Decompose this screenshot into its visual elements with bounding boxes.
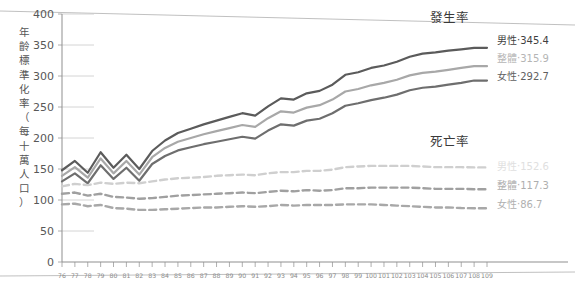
group-heading-mortality-label: 死亡率	[430, 134, 469, 149]
y-axis-title-char: ）	[19, 196, 29, 208]
y-axis-title-char: 十	[19, 140, 29, 152]
series-label-mortality-total: 整體‧117.3	[497, 179, 549, 191]
data-series-group	[62, 48, 487, 210]
series-label-mortality-male: 男性‧152.6	[497, 160, 549, 172]
series-label-incidence-male: 男性‧345.4	[497, 34, 549, 46]
x-tick-label: 92	[264, 272, 272, 279]
x-tick-label: 88	[213, 272, 221, 279]
x-tick-label: 87	[200, 272, 208, 279]
y-axis-tick-marks	[58, 14, 62, 262]
y-tick-label: 150	[33, 163, 54, 176]
x-tick-label: 81	[122, 272, 130, 279]
y-axis-title-char: 齡	[19, 40, 30, 52]
y-axis-title-char: 口	[19, 182, 29, 194]
y-axis-title-char: 標	[19, 54, 30, 66]
x-axis-tick-labels: 7677787980818283848586878889909192939495…	[58, 272, 493, 279]
y-axis-title-char: 每	[19, 125, 30, 137]
x-tick-label: 104	[417, 272, 429, 279]
series-label-incidence-total: 整體‧315.9	[497, 52, 549, 64]
chart-container: 050100150200250300350400 767778798081828…	[0, 0, 575, 284]
x-tick-label: 100	[365, 272, 377, 279]
y-axis-title-char: 人	[19, 168, 30, 180]
y-tick-label: 50	[40, 225, 54, 238]
x-tick-label: 82	[135, 272, 143, 279]
x-tick-label: 83	[148, 272, 156, 279]
group-heading-incidence: 發生率	[430, 10, 469, 25]
x-tick-label: 99	[354, 272, 362, 279]
x-tick-label: 93	[277, 272, 285, 279]
x-tick-label: 78	[84, 272, 92, 279]
x-tick-label: 109	[481, 272, 493, 279]
y-tick-label: 200	[33, 132, 54, 145]
x-tick-label: 79	[97, 272, 105, 279]
group-heading-incidence-label: 發生率	[430, 10, 469, 25]
x-tick-label: 105	[430, 272, 442, 279]
series-label-incidence-female: 女性‧292.7	[497, 70, 549, 82]
y-axis-title: 年齡標準化率（每十萬人口）	[19, 26, 30, 208]
gridlines	[62, 14, 94, 231]
x-tick-label: 107	[455, 272, 467, 279]
y-axis-tick-labels: 050100150200250300350400	[33, 8, 54, 269]
y-tick-label: 100	[33, 194, 54, 207]
y-axis-title-char: 化	[19, 83, 30, 95]
x-tick-label: 84	[161, 272, 169, 279]
x-tick-label: 94	[290, 272, 298, 279]
y-tick-label: 350	[33, 39, 54, 52]
x-tick-label: 86	[187, 272, 195, 279]
scan-artifact-lines	[0, 11, 575, 276]
x-tick-label: 103	[404, 272, 416, 279]
series-line-5	[62, 204, 487, 210]
x-tick-label: 89	[225, 272, 233, 279]
series-line-1	[62, 66, 487, 178]
y-axis-title-char: 年	[19, 26, 29, 38]
y-tick-label: 400	[33, 8, 54, 21]
x-tick-label: 95	[303, 272, 311, 279]
y-axis-title-char: （	[19, 111, 29, 123]
series-line-2	[62, 81, 487, 184]
x-tick-label: 97	[329, 272, 337, 279]
y-axis-title-char: 萬	[19, 154, 29, 166]
x-tick-label: 91	[251, 272, 259, 279]
x-tick-label: 96	[316, 272, 324, 279]
series-line-4	[62, 188, 487, 199]
x-tick-label: 90	[238, 272, 246, 279]
x-tick-label: 77	[71, 272, 79, 279]
y-tick-label: 0	[47, 256, 54, 269]
series-label-mortality-female: 女性‧86.7	[497, 198, 542, 210]
y-tick-label: 250	[33, 101, 54, 114]
x-tick-label: 76	[58, 272, 66, 279]
series-end-labels: 男性‧345.4 整體‧315.9 女性‧292.7 男性‧152.6 整體‧1…	[497, 34, 549, 210]
x-tick-label: 102	[391, 272, 403, 279]
group-heading-mortality: 死亡率	[430, 134, 469, 149]
x-axis-tick-marks	[62, 262, 487, 267]
x-tick-label: 101	[378, 272, 390, 279]
x-tick-label: 106	[442, 272, 454, 279]
y-axis-title-char: 率	[19, 97, 29, 109]
line-chart-svg: 050100150200250300350400 767778798081828…	[0, 0, 575, 284]
x-tick-label: 85	[174, 272, 182, 279]
x-tick-label: 80	[110, 272, 118, 279]
y-axis-title-char: 準	[19, 69, 29, 81]
x-tick-label: 98	[341, 272, 349, 279]
series-line-0	[62, 48, 487, 173]
y-tick-label: 300	[33, 70, 54, 83]
x-tick-label: 108	[468, 272, 480, 279]
